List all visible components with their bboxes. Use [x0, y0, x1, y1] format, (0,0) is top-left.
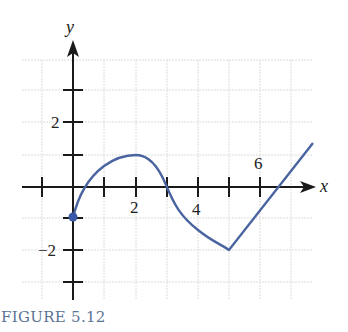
- y-tick-label-neg2: −2: [38, 241, 56, 260]
- x-axis-label: x: [319, 176, 328, 196]
- axes: [22, 52, 306, 300]
- function-graph: x y 2 4 6 2 −2: [0, 0, 348, 305]
- x-tick-label-2: 2: [130, 198, 139, 217]
- x-tick-label-6: 6: [254, 154, 263, 173]
- function-curve: [73, 143, 313, 250]
- figure-caption: FIGURE 5.12: [1, 308, 106, 326]
- x-tick-label-4: 4: [192, 200, 201, 219]
- y-tick-label-2: 2: [51, 113, 60, 132]
- start-point-marker: [69, 213, 78, 222]
- y-axis-label: y: [64, 17, 74, 37]
